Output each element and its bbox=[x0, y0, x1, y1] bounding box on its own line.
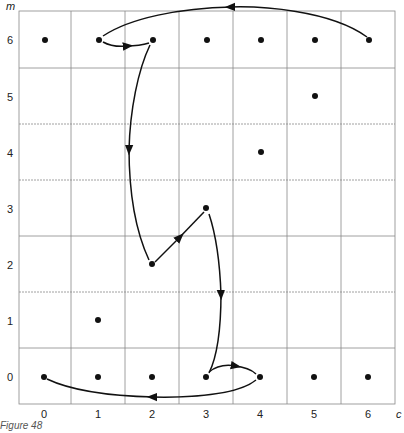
figure-caption: Figure 48 bbox=[0, 420, 42, 431]
state-points bbox=[41, 37, 372, 380]
x-tick: 4 bbox=[257, 408, 263, 420]
x-tick: 1 bbox=[95, 408, 101, 420]
point bbox=[312, 93, 318, 99]
y-tick: 4 bbox=[7, 147, 13, 159]
y-tick: 6 bbox=[7, 34, 13, 46]
point bbox=[258, 149, 264, 155]
y-tick: 1 bbox=[7, 315, 13, 327]
point bbox=[258, 37, 264, 43]
y-tick: 0 bbox=[7, 371, 13, 383]
arrow-4-0-to-0-0 bbox=[152, 380, 256, 397]
x-tick: 0 bbox=[41, 408, 47, 420]
arrow-3-3-to-3-0 bbox=[209, 214, 221, 295]
y-tick: 2 bbox=[7, 259, 13, 271]
point bbox=[41, 374, 47, 380]
point bbox=[95, 317, 101, 323]
transition-arrows bbox=[47, 7, 367, 397]
point bbox=[95, 374, 101, 380]
state-diagram: m c 6 5 4 3 2 1 0 0 1 2 3 4 5 6 bbox=[0, 0, 404, 433]
point bbox=[366, 37, 372, 43]
x-tick: 2 bbox=[149, 408, 155, 420]
y-tick: 3 bbox=[7, 203, 13, 215]
point bbox=[312, 37, 318, 43]
point bbox=[96, 37, 102, 43]
point bbox=[311, 374, 317, 380]
y-tick: 5 bbox=[7, 91, 13, 103]
arrow-2-6-to-2-2 bbox=[129, 45, 150, 150]
y-tick-labels: 6 5 4 3 2 1 0 bbox=[7, 34, 13, 383]
point bbox=[149, 374, 155, 380]
point bbox=[203, 374, 209, 380]
point bbox=[150, 37, 156, 43]
x-tick: 5 bbox=[311, 408, 317, 420]
point bbox=[257, 374, 263, 380]
point bbox=[203, 205, 209, 211]
point bbox=[365, 374, 371, 380]
arrow-1-6-to-2-6 bbox=[103, 42, 128, 46]
x-axis-name: c bbox=[396, 408, 402, 420]
x-tick: 6 bbox=[365, 408, 371, 420]
arrow-3-0-to-4-0 bbox=[209, 365, 236, 372]
y-axis-name: m bbox=[6, 0, 15, 12]
point bbox=[149, 261, 155, 267]
x-tick-labels: 0 1 2 3 4 5 6 bbox=[41, 408, 371, 420]
point bbox=[204, 37, 210, 43]
x-tick: 3 bbox=[203, 408, 209, 420]
point bbox=[42, 37, 48, 43]
arrow-2-2-to-3-3 bbox=[155, 237, 180, 262]
